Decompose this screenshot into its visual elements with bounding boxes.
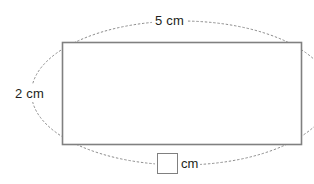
- bottom-dimension-answer-group: cm: [155, 153, 200, 174]
- geometry-diagram-canvas: 5 cm 2 cm cm: [0, 0, 314, 184]
- top-dimension-label: 5 cm: [152, 12, 187, 29]
- answer-unit-label: cm: [181, 157, 198, 170]
- answer-input-box[interactable]: [157, 153, 178, 174]
- left-dimension-label: 2 cm: [12, 85, 47, 102]
- rectangle-shape: [63, 43, 302, 145]
